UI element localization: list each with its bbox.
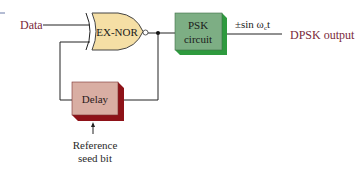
reference-label-line1: Reference [73,139,118,151]
reference-label-line2: seed bit [78,152,112,164]
exnor-input-curve [86,13,90,50]
psk-label-line1: PSK [188,19,208,31]
exnor-bubble [143,30,148,35]
delay-label: Delay [82,93,109,105]
dpsk-diagram: Data EX-NOR Delay Reference seed bit PSK… [0,0,361,172]
data-label: Data [20,18,43,32]
exnor-label: EX-NOR [96,26,138,38]
reference-arrow-head [91,122,95,127]
dpsk-output-label: DPSK output [290,28,355,42]
carrier-label: ±sin ωct [235,18,270,32]
psk-label-line2: circuit [184,33,212,45]
